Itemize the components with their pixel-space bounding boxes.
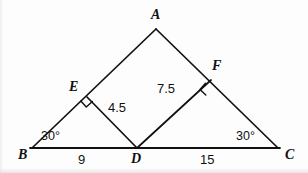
- measure-label-ED: 4.5: [108, 101, 126, 114]
- angle-label-B: 30°: [41, 130, 60, 143]
- vertex-label-D: D: [131, 152, 141, 166]
- measure-label-DC: 15: [200, 153, 214, 166]
- vertex-label-A: A: [151, 8, 160, 22]
- measure-label-BD: 9: [78, 153, 85, 166]
- vertex-label-B: B: [18, 148, 27, 162]
- vertex-label-F: F: [212, 59, 221, 73]
- vertex-label-E: E: [69, 80, 78, 94]
- geometry-canvas: [0, 0, 308, 173]
- angle-label-C: 30°: [236, 130, 255, 143]
- inner-segments: [87, 80, 211, 148]
- scan-edge-shading-bottom: [0, 168, 308, 173]
- measure-label-DF: 7.5: [157, 82, 175, 95]
- vertex-label-C: C: [285, 148, 294, 162]
- scan-edge-shading-left: [0, 0, 3, 173]
- geometry-figure: A B C D E F 4.5 7.5 9 15 30° 30°: [0, 0, 308, 173]
- right-angle-marks: [81, 83, 206, 107]
